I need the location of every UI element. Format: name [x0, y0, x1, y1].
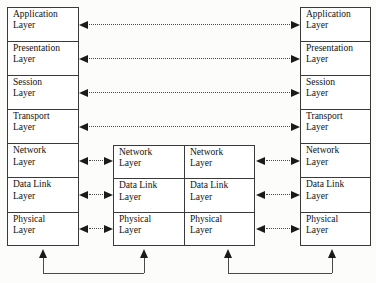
arrow-head-left-icon — [79, 123, 88, 131]
arrow-head-up-icon — [224, 249, 232, 258]
connector-stem — [332, 258, 333, 273]
arrow-head-left-icon — [256, 157, 265, 165]
layer-label-line2: Layer — [13, 20, 78, 31]
layer-label-line1: Transport — [306, 111, 370, 122]
arrow-head-right-icon — [291, 157, 300, 165]
layer-label-line1: Physical — [119, 214, 184, 225]
peer-arrow-transport — [79, 122, 300, 131]
dotted-line — [89, 92, 290, 93]
arrow-head-right-icon — [291, 191, 300, 199]
dotted-line — [89, 228, 103, 229]
arrow-head-left-icon — [79, 191, 88, 199]
layer-label-line2: Layer — [119, 158, 184, 169]
hop-arrow-data-link-left — [79, 190, 113, 199]
layer-label-line1: Data Link — [190, 180, 254, 191]
arrow-head-right-icon — [291, 225, 300, 233]
layer-label-line2: Layer — [306, 20, 370, 31]
mid-left-layer-data-link: Data Link Layer — [114, 179, 184, 212]
left-layer-data-link: Data Link Layer — [8, 178, 78, 212]
layer-label-line1: Data Link — [306, 179, 370, 190]
connector-base — [43, 273, 144, 274]
layer-label-line2: Layer — [306, 191, 370, 202]
layer-label-line1: Presentation — [13, 43, 78, 54]
connector-stem — [144, 258, 145, 273]
right-layer-transport: Transport Layer — [301, 110, 370, 144]
right-layer-application: Application Layer — [301, 8, 370, 42]
right-end-system-stack: Application Layer Presentation Layer Ses… — [300, 7, 371, 246]
arrow-head-right-icon — [291, 55, 300, 63]
layer-label-line1: Network — [306, 145, 370, 156]
layer-label-line1: Network — [13, 145, 78, 156]
layer-label-line1: Network — [119, 147, 184, 158]
right-layer-session: Session Layer — [301, 76, 370, 110]
layer-label-line2: Layer — [306, 225, 370, 236]
peer-arrow-session — [79, 88, 300, 97]
arrow-head-left-icon — [256, 225, 265, 233]
mid-right-layer-data-link: Data Link Layer — [185, 179, 254, 212]
layer-label-line1: Session — [306, 77, 370, 88]
layer-label-line2: Layer — [306, 157, 370, 168]
right-layer-physical: Physical Layer — [301, 213, 370, 247]
left-layer-physical: Physical Layer — [8, 213, 78, 247]
layer-label-line2: Layer — [13, 225, 78, 236]
layer-label-line2: Layer — [119, 225, 184, 236]
layer-label-line1: Transport — [13, 111, 78, 122]
right-layer-network: Network Layer — [301, 144, 370, 178]
layer-label-line1: Physical — [306, 214, 370, 225]
arrow-head-right-icon — [104, 157, 113, 165]
connector-base — [228, 273, 332, 274]
layer-label-line1: Physical — [13, 214, 78, 225]
arrow-head-right-icon — [291, 89, 300, 97]
arrow-head-right-icon — [104, 191, 113, 199]
peer-arrow-application — [79, 20, 300, 29]
layer-label-line1: Application — [13, 9, 78, 20]
layer-label-line2: Layer — [306, 54, 370, 65]
layer-label-line1: Presentation — [306, 43, 370, 54]
layer-label-line2: Layer — [190, 225, 254, 236]
layer-label-line2: Layer — [13, 122, 78, 133]
arrow-head-right-icon — [291, 21, 300, 29]
layer-label-line1: Data Link — [119, 180, 184, 191]
dotted-line — [89, 160, 103, 161]
layer-label-line2: Layer — [190, 192, 254, 203]
layer-label-line1: Physical — [190, 214, 254, 225]
mid-right-layer-network: Network Layer — [185, 146, 254, 179]
mid-left-layer-physical: Physical Layer — [114, 213, 184, 246]
layer-label-line2: Layer — [13, 191, 78, 202]
dotted-line — [266, 228, 290, 229]
layer-label-line2: Layer — [13, 157, 78, 168]
hop-arrow-physical-left — [79, 224, 113, 233]
left-layer-session: Session Layer — [8, 76, 78, 110]
mid-right-layer-physical: Physical Layer — [185, 213, 254, 246]
left-layer-application: Application Layer — [8, 8, 78, 42]
arrow-head-left-icon — [79, 225, 88, 233]
left-end-system-stack: Application Layer Presentation Layer Ses… — [7, 7, 79, 246]
arrow-head-left-icon — [79, 55, 88, 63]
left-layer-presentation: Presentation Layer — [8, 42, 78, 76]
right-layer-presentation: Presentation Layer — [301, 42, 370, 76]
arrow-head-right-icon — [291, 123, 300, 131]
layer-label-line2: Layer — [306, 88, 370, 99]
layer-label-line2: Layer — [306, 122, 370, 133]
osi-layer-diagram: Application Layer Presentation Layer Ses… — [0, 0, 376, 283]
mid-left-layer-network: Network Layer — [114, 146, 184, 179]
arrow-head-left-icon — [79, 89, 88, 97]
hop-arrow-network-right — [256, 156, 300, 165]
mid-right-intermediate-node: Network Layer Data Link Layer Physical L… — [184, 145, 255, 246]
layer-label-line2: Layer — [190, 158, 254, 169]
layer-label-line2: Layer — [13, 54, 78, 65]
connector-stem — [228, 258, 229, 273]
mid-left-intermediate-node: Network Layer Data Link Layer Physical L… — [113, 145, 185, 246]
layer-label-line1: Session — [13, 77, 78, 88]
layer-label-line2: Layer — [13, 88, 78, 99]
dotted-line — [266, 194, 290, 195]
layer-label-line1: Application — [306, 9, 370, 20]
layer-label-line1: Data Link — [13, 179, 78, 190]
dotted-line — [89, 194, 103, 195]
dotted-line — [89, 58, 290, 59]
hop-arrow-physical-right — [256, 224, 300, 233]
dotted-line — [266, 160, 290, 161]
arrow-head-left-icon — [79, 157, 88, 165]
hop-arrow-network-left — [79, 156, 113, 165]
arrow-head-left-icon — [256, 191, 265, 199]
